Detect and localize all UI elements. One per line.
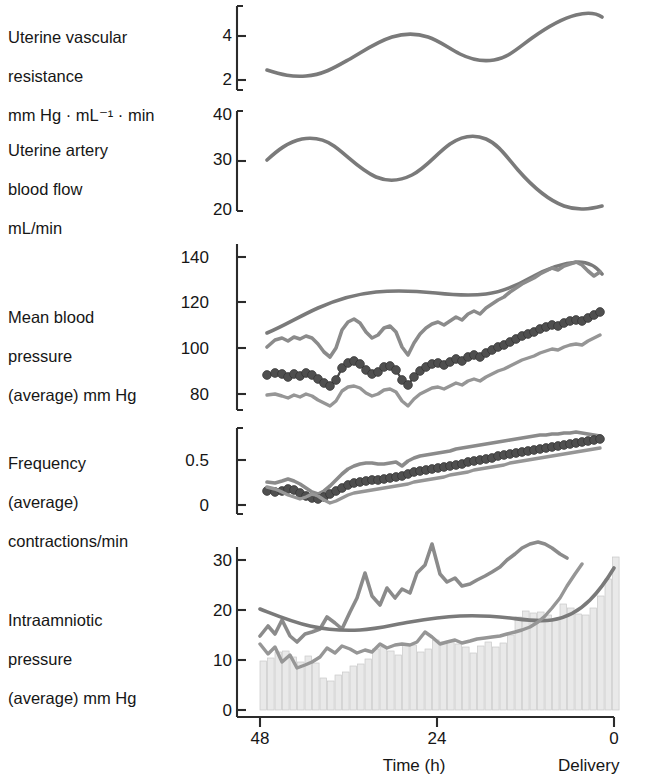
plot-intraamniotic-pressure [230,542,642,727]
panel-label-uterine-artery-blood-flow: Uterine artery blood flow mL/min [8,121,208,238]
label-line: mL/min [8,219,62,237]
ytick-mbp-100: 100 [163,340,209,357]
ytick-mbp-80: 80 [163,386,209,403]
curve-uterine-artery-blood-flow [267,136,602,209]
bars-intraamniotic-pressure [260,557,619,710]
xaxis [230,706,642,730]
xaxis-title: Time (h) [354,757,474,774]
label-line: Uterine artery [8,141,108,159]
ytick-iap-30: 30 [186,552,232,569]
label-line: pressure [8,650,72,668]
ytick-uabf-20: 20 [186,201,232,218]
ytick-iap-20: 20 [186,602,232,619]
ytick-uabf-30: 30 [186,151,232,168]
label-line: (average) mm Hg [8,689,136,707]
xtick-label-24: 24 [407,730,467,747]
panel-label-uterine-vascular-resistance: Uterine vascular resistance mm Hg · mL⁻¹… [8,8,208,125]
yaxis-uvr [237,6,243,90]
label-line: pressure [8,347,72,365]
plot-uterine-vascular-resistance [230,4,642,96]
curve-uterine-vascular-resistance [267,13,602,76]
ytick-uvr-4: 4 [186,27,232,44]
plot-contraction-frequency [230,424,642,524]
curve-freq-upper-band [267,432,600,494]
yaxis-freq [237,428,243,514]
ytick-iap-10: 10 [186,652,232,669]
ytick-mbp-140: 140 [163,249,209,266]
curve-freq-lower-band [267,448,600,503]
curve-mbp-lower-band [267,335,600,406]
label-line: Intraamniotic [8,611,102,629]
label-line: Mean blood [8,308,94,326]
ytick-iap-0: 0 [186,702,232,719]
xtick-label-48: 48 [230,730,290,747]
label-line: (average) [8,493,79,511]
ytick-freq-05: 0.5 [163,452,209,469]
ytick-uabf-40: 40 [186,106,232,123]
label-line: (average) mm Hg [8,386,136,404]
label-line: blood flow [8,180,82,198]
xaxis-end-label-delivery: Delivery [558,757,619,774]
ytick-freq-0: 0 [163,497,209,514]
panel-label-intraamniotic-pressure: Intraamniotic pressure (average) mm Hg [8,591,208,708]
figure-container: Uterine vascular resistance mm Hg · mL⁻¹… [0,0,646,779]
label-line: contractions/min [8,532,128,550]
xtick-label-0: 0 [584,730,644,747]
label-line: Frequency [8,454,86,472]
label-line: resistance [8,67,83,85]
yaxis-mbp [237,244,243,410]
label-line: Uterine vascular [8,28,127,46]
ytick-uvr-2: 2 [186,71,232,88]
plot-uterine-artery-blood-flow [230,106,642,220]
ytick-mbp-120: 120 [163,294,209,311]
plot-mean-blood-pressure [230,240,642,420]
